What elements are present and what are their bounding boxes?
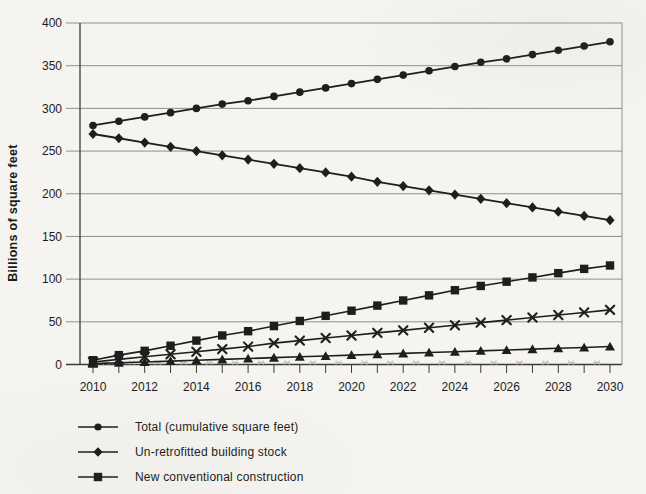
y-tick-label: 400 — [42, 16, 62, 30]
y-axis-title: Billions of square feet — [6, 144, 20, 282]
legend-item-unretrofitted: Un-retrofitted building stock — [76, 446, 304, 458]
x-tick-label: 2012 — [131, 380, 158, 394]
legend-item-total: Total (cumulative square feet) — [76, 421, 304, 433]
y-tick-label: 200 — [42, 187, 62, 201]
x-tick-label: 2016 — [235, 380, 262, 394]
y-tick-label: 50 — [49, 315, 63, 329]
x-axis: 2010201220142016201820202022202420262028… — [80, 365, 624, 395]
gridlines: 050100150200250300350400 — [42, 16, 622, 372]
plot-area: 0501001502002503003504002010201220142016… — [42, 16, 624, 394]
chart-legend: Total (cumulative square feet) Un-retrof… — [76, 421, 304, 494]
x-tick-label: 2028 — [545, 380, 572, 394]
x-tick-label: 2014 — [183, 380, 210, 394]
x-tick-label: 2024 — [442, 380, 469, 394]
y-tick-label: 0 — [55, 358, 62, 372]
legend-marker-diamond-icon — [76, 446, 120, 458]
x-tick-label: 2030 — [597, 380, 624, 394]
y-tick-label: 300 — [42, 102, 62, 116]
x-tick-label: 2022 — [390, 380, 417, 394]
y-tick-label: 350 — [42, 59, 62, 73]
y-tick-label: 100 — [42, 272, 62, 286]
legend-label-total: Total (cumulative square feet) — [135, 420, 298, 434]
series-circle — [89, 38, 614, 129]
legend-label-new-conventional: New conventional construction — [135, 470, 304, 484]
legend-marker-circle-icon — [76, 421, 120, 433]
y-tick-label: 250 — [42, 144, 62, 158]
legend-item-new-conventional: New conventional construction — [76, 471, 304, 483]
x-tick-label: 2010 — [80, 380, 107, 394]
x-tick-label: 2020 — [338, 380, 365, 394]
line-chart: Billions of square feet 0501001502002503… — [0, 0, 646, 412]
scanned-chart-figure: Billions of square feet 0501001502002503… — [0, 0, 646, 494]
y-tick-label: 150 — [42, 230, 62, 244]
series-diamond — [88, 129, 614, 225]
legend-marker-square-icon — [76, 471, 120, 483]
x-tick-label: 2018 — [286, 380, 313, 394]
legend-label-unretrofitted: Un-retrofitted building stock — [135, 445, 287, 459]
x-tick-label: 2026 — [493, 380, 520, 394]
